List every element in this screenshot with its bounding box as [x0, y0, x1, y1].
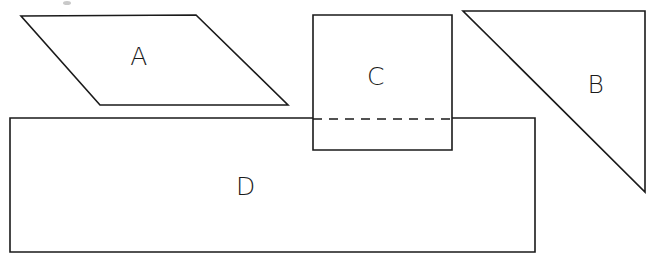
shape-label-a: A: [130, 42, 148, 71]
shape-d-rectangle: [10, 118, 535, 252]
scan-speck-artifact: [63, 1, 71, 5]
shape-label-b: B: [588, 70, 605, 99]
shape-a-parallelogram: [21, 15, 288, 105]
figure-canvas: A B C D: [0, 0, 658, 266]
shape-label-c: C: [367, 62, 385, 91]
geometry-figure: A B C D: [0, 0, 658, 266]
shape-label-d: D: [236, 172, 256, 201]
